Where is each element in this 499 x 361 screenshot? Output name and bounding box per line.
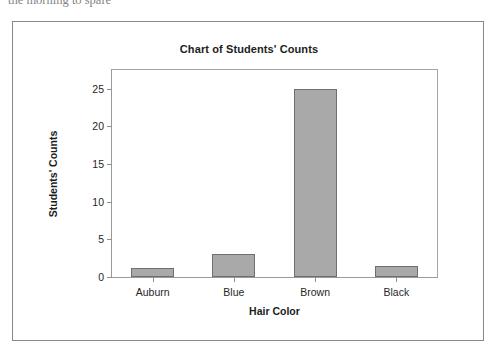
page-body-text-fragment: the morning to spare [8,0,228,7]
x-axis-tick-label: Blue [223,286,244,298]
bar-auburn [131,268,174,277]
y-axis-tick-label: 5 [98,233,104,245]
bar-brown [294,89,337,277]
x-axis-title: Hair Color [111,305,438,317]
x-axis-tick [315,277,316,282]
x-axis-tick-label: Brown [300,286,330,298]
figure-frame: Chart of Students' Counts Students' Coun… [12,21,484,341]
y-axis-tick [107,202,112,203]
y-axis-tick-label: 25 [92,83,104,95]
y-axis-tick [107,277,112,278]
x-axis-tick [153,277,154,282]
y-axis-tick [107,239,112,240]
bar-blue [212,254,255,277]
y-axis-tick-label: 10 [92,196,104,208]
x-axis-tick [234,277,235,282]
y-axis-tick [107,89,112,90]
y-axis-tick-label: 0 [98,271,104,283]
x-axis-tick [396,277,397,282]
bar-black [375,266,418,277]
plot-area: 0510152025AuburnBlueBrownBlack [111,69,438,278]
chart-title: Chart of Students' Counts [13,43,485,55]
x-axis-tick-label: Auburn [136,286,170,298]
y-axis-tick-label: 15 [92,158,104,170]
y-axis-title: Students' Counts [47,131,59,218]
x-axis-tick-label: Black [384,286,410,298]
bar-series [112,70,437,277]
y-axis-tick [107,164,112,165]
y-axis-tick [107,126,112,127]
y-axis-tick-label: 20 [92,120,104,132]
